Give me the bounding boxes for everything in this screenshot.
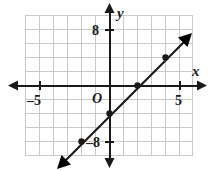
graph-svg: y x O –5 5 8 –8 (0, 0, 215, 171)
axes (14, 8, 201, 163)
plotted-line-series (57, 33, 192, 169)
data-point (106, 110, 112, 116)
x-axis-arrow-right (197, 81, 207, 91)
x-tick-label-neg5: –5 (26, 93, 41, 108)
data-point (162, 54, 168, 60)
coordinate-plane-graph: y x O –5 5 8 –8 (0, 0, 215, 171)
origin-label: O (92, 91, 102, 106)
data-point (134, 82, 140, 88)
y-tick-label-neg8: –8 (85, 135, 100, 150)
data-point (78, 138, 84, 144)
y-axis-label: y (115, 5, 124, 21)
y-axis-arrow-down (105, 158, 115, 168)
y-tick-label-pos8: 8 (92, 23, 99, 38)
x-axis-label: x (191, 63, 200, 79)
x-axis-arrow-left (8, 81, 18, 91)
x-tick-label-pos5: 5 (175, 93, 182, 108)
y-axis-arrow-up (105, 3, 115, 13)
